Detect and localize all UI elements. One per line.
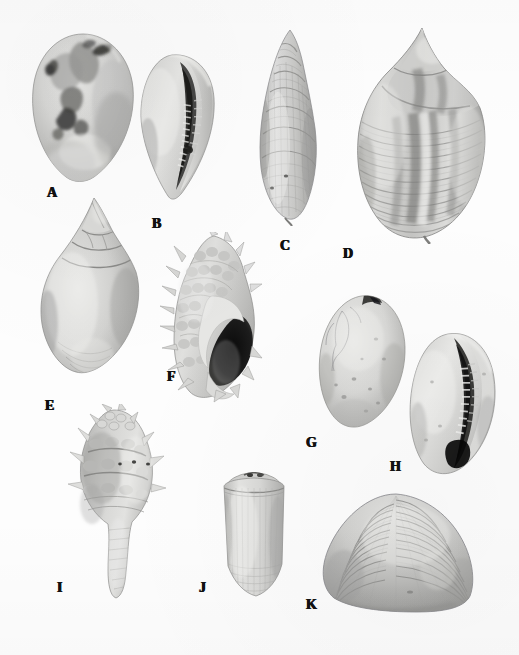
specimen-i	[58, 404, 174, 600]
specimen-k	[318, 492, 478, 616]
specimen-h	[404, 330, 502, 478]
shell-plate-image: A	[0, 0, 519, 655]
specimen-c	[252, 28, 326, 226]
figure-label-d: D	[343, 247, 353, 261]
figure-label-c: C	[280, 239, 290, 253]
specimen-a	[28, 32, 138, 184]
specimen-e	[32, 196, 150, 388]
specimen-g	[314, 293, 410, 433]
figure-label-e: E	[45, 399, 54, 413]
figure-label-g: G	[306, 436, 317, 450]
specimen-j	[212, 472, 296, 600]
figure-label-h: H	[390, 460, 401, 474]
figure-label-k: K	[306, 598, 317, 612]
specimen-d	[352, 26, 490, 244]
figure-label-j: J	[199, 581, 206, 595]
figure-label-i: I	[57, 581, 62, 595]
figure-label-b: B	[152, 217, 161, 231]
figure-label-f: F	[167, 370, 176, 384]
specimen-b	[132, 52, 220, 204]
